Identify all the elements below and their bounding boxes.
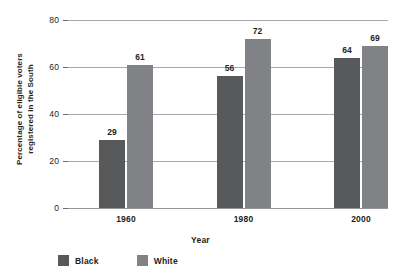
legend-swatch-black bbox=[58, 255, 69, 266]
bar-white-1980[interactable]: 72 bbox=[245, 39, 271, 208]
bar-black-1960[interactable]: 29 bbox=[99, 140, 125, 208]
legend-swatch-white bbox=[137, 255, 148, 266]
bar-group-1980: 56721980 bbox=[217, 20, 271, 208]
chart-legend: BlackWhite bbox=[58, 255, 178, 266]
y-tick-label-60: 60 bbox=[49, 62, 59, 72]
bar-group-2000: 64692000 bbox=[334, 20, 388, 208]
bar-value-label-white-1960: 61 bbox=[135, 52, 145, 62]
legend-item-white[interactable]: White bbox=[137, 255, 178, 266]
x-axis-title: Year bbox=[0, 235, 401, 245]
bar-value-label-white-1980: 72 bbox=[253, 26, 263, 36]
bar-white-2000[interactable]: 69 bbox=[362, 46, 388, 208]
bar-black-1980[interactable]: 56 bbox=[217, 76, 243, 208]
y-axis-title: Percentage of eligible voters registered… bbox=[14, 15, 44, 203]
bar-value-label-black-2000: 64 bbox=[342, 45, 352, 55]
x-tick-label-1960: 1960 bbox=[116, 214, 136, 224]
y-tick-mark-40 bbox=[63, 114, 68, 115]
y-tick-label-20: 20 bbox=[49, 156, 59, 166]
y-axis-title-line-2: registered in the South bbox=[25, 15, 36, 203]
clipped-title-remnant bbox=[0, 0, 401, 3]
x-tick-label-2000: 2000 bbox=[351, 214, 371, 224]
y-tick-mark-0 bbox=[63, 208, 68, 209]
bar-white-1960[interactable]: 61 bbox=[127, 65, 153, 208]
x-tick-label-1980: 1980 bbox=[234, 214, 254, 224]
y-tick-mark-20 bbox=[63, 161, 68, 162]
y-tick-label-80: 80 bbox=[49, 15, 59, 25]
y-tick-label-40: 40 bbox=[49, 109, 59, 119]
plot-area: 020406080296119605672198064692000 bbox=[68, 20, 388, 208]
bar-chart: Percentage of eligible voters registered… bbox=[0, 0, 401, 275]
legend-label-white: White bbox=[154, 256, 178, 266]
y-tick-mark-60 bbox=[63, 67, 68, 68]
bar-group-1960: 29611960 bbox=[99, 20, 153, 208]
legend-item-black[interactable]: Black bbox=[58, 255, 99, 266]
bar-black-2000[interactable]: 64 bbox=[334, 58, 360, 208]
legend-label-black: Black bbox=[75, 256, 99, 266]
y-tick-label-0: 0 bbox=[54, 203, 59, 213]
y-tick-mark-80 bbox=[63, 20, 68, 21]
bar-value-label-black-1980: 56 bbox=[225, 63, 235, 73]
bar-value-label-black-1960: 29 bbox=[107, 127, 117, 137]
y-axis-title-line-1: Percentage of eligible voters bbox=[14, 15, 25, 203]
bar-value-label-white-2000: 69 bbox=[370, 33, 380, 43]
gridline-0 bbox=[68, 208, 388, 209]
